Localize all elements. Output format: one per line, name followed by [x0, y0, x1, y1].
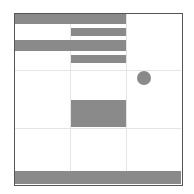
grid-line-vertical-1 [70, 14, 71, 171]
grid-line-horizontal-2 [15, 128, 181, 129]
grid-line-horizontal-1 [15, 70, 181, 71]
content-block [71, 100, 126, 127]
header-bar-4 [71, 55, 126, 63]
status-dot [137, 71, 151, 85]
footer-bar [15, 171, 181, 184]
header-bar-3 [15, 40, 126, 51]
header-bar-2 [71, 28, 126, 36]
header-bar-1 [15, 14, 126, 24]
grid-line-vertical-2 [126, 14, 127, 171]
